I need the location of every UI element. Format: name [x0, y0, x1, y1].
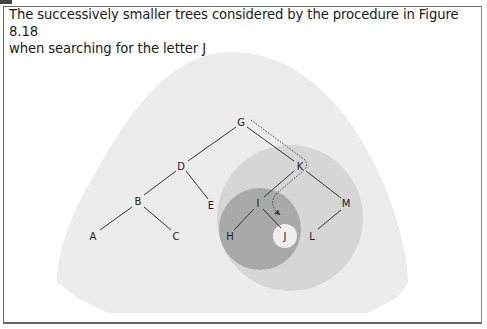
binary-search-tree-diagram: G D K B E I M A C H J L	[0, 0, 487, 329]
node-d: D	[177, 161, 185, 172]
node-b: B	[135, 196, 142, 207]
node-g: G	[237, 117, 245, 128]
node-h: H	[226, 231, 234, 242]
node-c: C	[173, 231, 180, 242]
node-a: A	[90, 231, 97, 242]
node-l: L	[309, 231, 315, 242]
node-m: M	[342, 198, 351, 209]
node-k: K	[297, 161, 304, 172]
node-j: J	[283, 231, 287, 242]
node-i: I	[257, 198, 260, 209]
node-e: E	[208, 200, 214, 211]
